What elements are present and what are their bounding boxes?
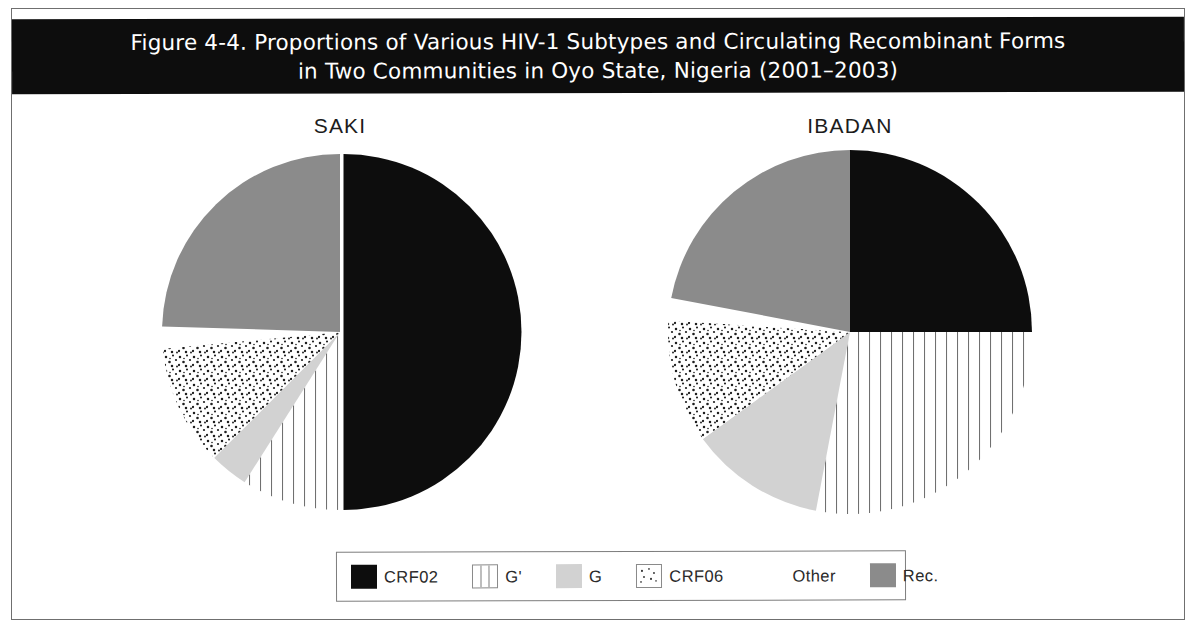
legend-label-other: Other [793, 566, 836, 585]
legend-item-rec: Rec. [870, 563, 939, 587]
legend-label-crf06: CRF06 [669, 566, 723, 585]
figure-title-line-2: in Two Communities in Oyo State, Nigeria… [298, 55, 898, 85]
legend-item-crf02: CRF02 [351, 564, 438, 588]
pie-title-ibadan: IBADAN [660, 114, 1040, 138]
legend-swatch-g-icon [556, 564, 582, 588]
figure-title-banner: Figure 4-4. Proportions of Various HIV-1… [12, 17, 1184, 94]
pie-panel-saki: SAKI [150, 114, 530, 514]
pie-slice-rec [162, 154, 340, 332]
legend: CRF02 G' G [336, 550, 906, 601]
vertical-stripes-icon [473, 565, 497, 587]
legend-swatch-crf02-icon [351, 565, 377, 589]
pie-chart-ibadan [660, 144, 1040, 514]
legend-swatch-crf06-icon [636, 564, 662, 588]
legend-item-other: Other [760, 563, 836, 587]
figure-title-line-1: Figure 4-4. Proportions of Various HIV-1… [130, 26, 1065, 57]
stippled-dots-icon [637, 565, 661, 587]
legend-item-gprime: G' [472, 564, 522, 588]
legend-swatch-other-icon [760, 564, 786, 588]
legend-label-rec: Rec. [903, 566, 939, 585]
pie-panel-ibadan: IBADAN [660, 114, 1040, 514]
legend-label-g: G [589, 567, 602, 586]
legend-swatch-gprime-icon [472, 564, 498, 588]
pie-slice-g [816, 332, 1032, 514]
legend-label-gprime: G' [505, 567, 522, 586]
pie-slice-crf02 [850, 150, 1032, 332]
legend-item-crf06: CRF06 [636, 564, 723, 588]
legend-label-crf02: CRF02 [384, 567, 438, 586]
figure-root: Figure 4-4. Proportions of Various HIV-1… [0, 0, 1198, 632]
legend-item-g: G [556, 564, 602, 588]
pie-chart-saki [150, 144, 530, 514]
legend-swatch-rec-icon [870, 563, 896, 587]
pie-slice-crf02 [344, 154, 522, 510]
pie-title-saki: SAKI [150, 114, 530, 138]
